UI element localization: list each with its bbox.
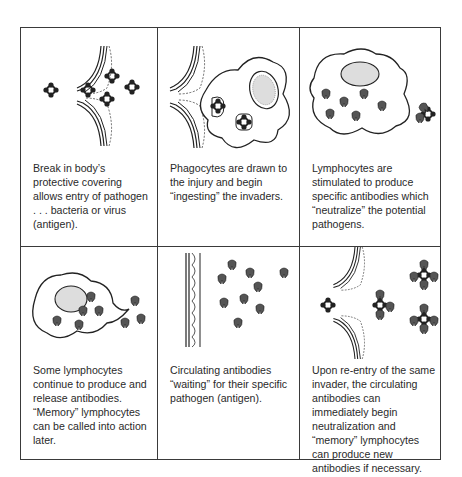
panel-break-in-skin: Break in body’s protective covering allo… bbox=[21, 28, 157, 246]
memory-lymphocyte-illustration bbox=[21, 247, 157, 377]
panel-lymphocytes: Lymphocytes are stimulated to produce sp… bbox=[300, 28, 442, 246]
immune-response-diagram: Break in body’s protective covering allo… bbox=[20, 27, 441, 460]
panel-caption: Upon re-entry of the same invader, the c… bbox=[312, 363, 436, 475]
panel-caption: Phagocytes are drawn to the injury and b… bbox=[170, 161, 293, 203]
skin-break-illustration bbox=[21, 28, 157, 168]
panel-reentry: Upon re-entry of the same invader, the c… bbox=[300, 247, 442, 461]
reentry-illustration bbox=[300, 247, 442, 377]
circulating-antibodies-illustration bbox=[158, 247, 299, 377]
panel-circulating-antibodies: Circulating antibodies “waiting” for the… bbox=[158, 247, 299, 461]
panel-caption: Circulating antibodies “waiting” for the… bbox=[170, 363, 293, 405]
panel-caption: Some lymphocytes continue to produce and… bbox=[33, 363, 151, 447]
panel-caption: Break in body’s protective covering allo… bbox=[33, 161, 151, 231]
lymphocyte-illustration bbox=[300, 28, 442, 168]
panel-memory-lymphocytes: Some lymphocytes continue to produce and… bbox=[21, 247, 157, 461]
panel-caption: Lymphocytes are stimulated to produce sp… bbox=[312, 161, 436, 231]
phagocyte-illustration bbox=[158, 28, 299, 168]
panel-phagocytes: Phagocytes are drawn to the injury and b… bbox=[158, 28, 299, 246]
